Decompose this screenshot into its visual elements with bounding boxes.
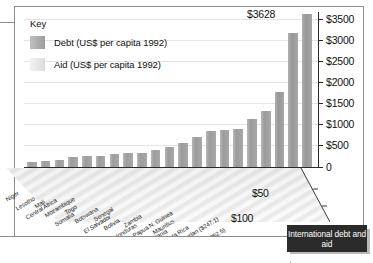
bar-israel [288,33,298,167]
ytick-label-3000: $3000 [326,34,354,46]
bar-zambia [192,137,202,167]
ytick-mark-3000 [318,40,323,41]
bar-gabon [302,14,312,167]
legend-label-debt: Debt (US$ per capita 1992) [54,37,167,48]
ytick-mark-1500 [318,103,323,104]
bar-jamaica [261,111,271,167]
bar-central-africa [55,160,65,167]
bar-bolivia [165,147,175,167]
bar-jordan [275,92,285,167]
ytick-label-2500: $2500 [326,55,354,67]
ytick-label-1000: $1000 [326,118,354,130]
bar-mozambique [96,156,106,167]
bar-togo [110,154,120,167]
bar-mauritania [220,130,230,167]
bar-costa-rica [247,119,257,167]
ytick-label-3500: $3500 [326,13,354,25]
ytick-mark-500 [318,145,323,146]
bar-el-salvador [137,153,147,167]
ytick-mark-2000 [318,82,323,83]
bar-honduras [178,143,188,167]
ytick-mark-1000 [318,124,323,125]
bar-mali [68,157,78,167]
bar-botswana [123,153,133,167]
category-label-somalia: Somalia [53,211,75,228]
legend: Key Debt (US$ per capita 1992) Aid (US$ … [30,18,167,80]
ytick-mark-3500 [318,19,323,20]
legend-title: Key [30,18,167,29]
legend-swatch-debt [30,36,45,49]
ytick-label-1500: $1500 [326,97,354,109]
peak-value-label: $3628 [247,8,275,20]
legend-label-aid: Aid (US$ per capita 1992) [54,59,161,70]
bar-papua-n-guinea [206,131,216,167]
legend-swatch-aid [30,58,45,71]
bar-mauritius [233,129,243,167]
bar-somalia [82,156,92,167]
ytick-label-500: $500 [326,139,349,151]
legend-item-debt: Debt (US$ per capita 1992) [30,36,167,49]
ytick-mark-2500 [318,61,323,62]
ytick-mark-0 [318,167,323,168]
figure-title-tab: International debt and aid [287,225,367,252]
bottom-white-strip [0,254,373,262]
ytick-label-0: 0 [326,161,332,173]
ytick-label-2000: $2000 [326,76,354,88]
legend-item-aid: Aid (US$ per capita 1992) [30,58,167,71]
figure-title-text: International debt and aid [287,229,367,249]
category-label-niger: Niger [4,189,20,202]
bar-senegal [151,150,161,167]
